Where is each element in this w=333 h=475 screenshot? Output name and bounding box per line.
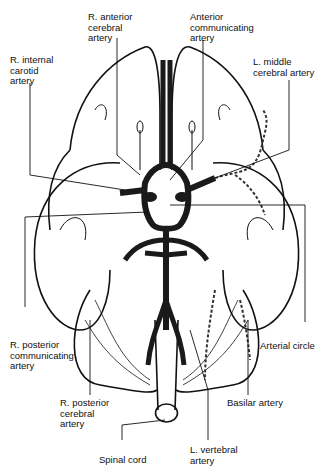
- label-l-vertebral-artery: L. vertebral artery: [190, 445, 238, 466]
- label-l-middle-cerebral-artery: L. middle cerebral artery: [253, 57, 314, 78]
- dashed-arteries: [205, 110, 267, 380]
- label-r-posterior-cerebral-artery: R. posterior cerebral artery: [60, 398, 109, 430]
- label-r-internal-carotid-artery: R. internal carotid artery: [10, 55, 53, 87]
- label-spinal-cord: Spinal cord: [99, 455, 147, 466]
- label-anterior-communicating-artery: Anterior communicating artery: [190, 12, 254, 44]
- label-r-anterior-cerebral-artery: R. anterior cerebral artery: [88, 12, 132, 44]
- label-arterial-circle: Arterial circle: [260, 341, 315, 352]
- label-basilar-artery: Basilar artery: [227, 398, 283, 409]
- label-r-posterior-communicating-artery: R. posterior communicating artery: [10, 340, 74, 372]
